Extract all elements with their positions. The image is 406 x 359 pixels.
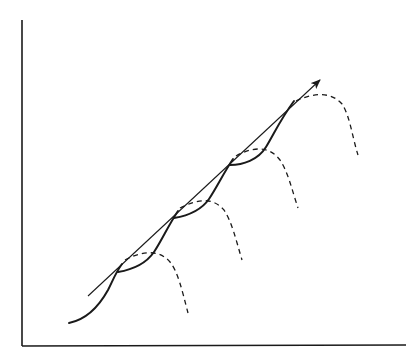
dashed-decline-1 xyxy=(125,253,188,313)
dashed-decline-3 xyxy=(236,149,298,208)
s-curve-diagram xyxy=(0,0,406,359)
x-axis xyxy=(22,345,406,346)
s-curve-1 xyxy=(69,264,122,323)
dashed-decline-2 xyxy=(180,201,242,260)
dashed-decline-4 xyxy=(296,95,358,155)
